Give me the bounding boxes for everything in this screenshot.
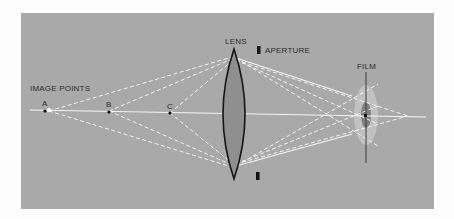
aperture-label: APERTURE bbox=[265, 46, 310, 55]
point-a-glow bbox=[47, 108, 51, 112]
point-c-dot bbox=[168, 111, 171, 114]
image-points-label: IMAGE POINTS bbox=[30, 84, 90, 93]
aperture-top-icon bbox=[257, 46, 261, 54]
point-c-label: C bbox=[167, 102, 173, 111]
film-focus-point bbox=[364, 114, 367, 117]
aperture-bottom-icon bbox=[256, 172, 260, 180]
solid-rays bbox=[236, 58, 352, 166]
film-label: FILM bbox=[357, 62, 376, 71]
point-a-label: A bbox=[42, 99, 48, 108]
optics-diagram bbox=[0, 0, 454, 219]
lens-label: LENS bbox=[225, 37, 247, 46]
lens-icon bbox=[223, 49, 245, 179]
point-b-dot bbox=[107, 110, 110, 113]
point-b-label: B bbox=[106, 100, 112, 109]
point-a-dot bbox=[43, 109, 46, 112]
